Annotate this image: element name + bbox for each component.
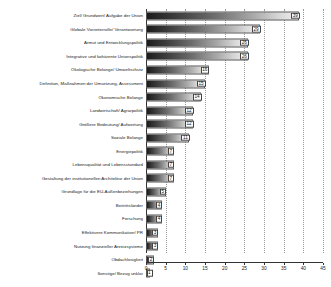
bar-area: 12 [146, 117, 331, 131]
bar-area: 5 [146, 185, 331, 199]
value-label: 7 [168, 175, 174, 182]
bar-area: 14 [146, 90, 331, 104]
tick-mark-30 [264, 263, 265, 265]
tick-mark-15 [205, 263, 206, 265]
tick-label-15: 15 [202, 266, 207, 272]
value-label: 5 [160, 189, 166, 196]
value-label: 26 [240, 40, 249, 47]
value-label: 3 [152, 243, 158, 250]
bar-area: 26 [146, 36, 331, 50]
bar-track [146, 65, 209, 74]
tick-label-35: 35 [281, 266, 286, 272]
bar-track [146, 52, 248, 61]
tick-label-20: 20 [222, 266, 227, 272]
category-label: Lebensqualität und Lebensstandard [0, 162, 146, 167]
tick-mark-35 [284, 263, 285, 265]
category-label: Soziale Belange [0, 135, 146, 140]
bar-track [146, 11, 299, 20]
category-label: Forschung [0, 216, 146, 221]
value-label: 7 [168, 161, 174, 168]
tick-label-5: 5 [164, 266, 167, 272]
bar-rows: Ziel/ Grundwert/ Aufgabe der Union39Glob… [0, 9, 331, 280]
category-label: Sonstige/ Bezug unklar [0, 271, 146, 276]
tick-label-0: 0 [145, 266, 148, 272]
bar-row: Globale Vorreiterrolle/ Verantwortung29 [0, 23, 331, 37]
plot-area: Ziel/ Grundwert/ Aufgabe der Union39Glob… [0, 0, 331, 287]
value-label: 16 [201, 67, 210, 74]
tick-label-40: 40 [301, 266, 306, 272]
category-label: Größere Bedeutung/ Aufwertung [0, 122, 146, 127]
bar-area: 29 [146, 23, 331, 37]
x-axis-ticks: 051015202530354045 [146, 263, 323, 275]
tick-label-30: 30 [261, 266, 266, 272]
tick-label-10: 10 [183, 266, 188, 272]
value-label: 3 [152, 229, 158, 236]
bar-area: 26 [146, 50, 331, 64]
bar [146, 11, 299, 20]
bar-row: Definition, Maßnahmen der Umsetzung, Ass… [0, 77, 331, 91]
bar-row: Lebensqualität und Lebensstandard7 [0, 158, 331, 172]
bar-area: 39 [146, 9, 331, 23]
category-label: Grundlage für die EU-Außenbeziehungen [0, 189, 146, 194]
bar-area: 3 [146, 239, 331, 253]
bar-area: 7 [146, 172, 331, 186]
value-label: 14 [193, 94, 202, 101]
value-label: 12 [185, 121, 194, 128]
category-label: Energiepolitik [0, 149, 146, 154]
bar-row: Beitrittsländer4 [0, 199, 331, 213]
tick-mark-45 [323, 263, 324, 265]
value-label: 4 [156, 216, 162, 223]
bar-row: Gestaltung der institutionellen Architek… [0, 172, 331, 186]
bar-area: 16 [146, 63, 331, 77]
bar-area: 7 [146, 144, 331, 158]
tick-label-45: 45 [320, 266, 325, 272]
value-label: 26 [240, 53, 249, 60]
category-label: Definition, Maßnahmen der Umsetzung, Ass… [0, 81, 146, 86]
category-label: Integrative und kohärente Unionspolitik [0, 54, 146, 59]
bar-chart: Ziel/ Grundwert/ Aufgabe der Union39Glob… [0, 0, 331, 287]
bar [146, 25, 260, 34]
bar-row: Energiepolitik7 [0, 144, 331, 158]
value-label: 15 [197, 80, 206, 87]
tick-label-25: 25 [242, 266, 247, 272]
category-label: Beitrittsländer [0, 203, 146, 208]
category-label: Obdachlosigkeit [0, 257, 146, 262]
bar-row: Effektivere Kommunikation/ PR3 [0, 226, 331, 240]
category-label: Armut und Entwicklungspolitik [0, 40, 146, 45]
category-label: Globale Vorreiterrolle/ Verantwortung [0, 27, 146, 32]
tick-mark-40 [303, 263, 304, 265]
category-label: Ökonomische Belange [0, 95, 146, 100]
value-label: 39 [291, 12, 300, 19]
tick-mark-5 [166, 263, 167, 265]
bar-area: 7 [146, 158, 331, 172]
bar-row: Grundlage für die EU-Außenbeziehungen5 [0, 185, 331, 199]
bar-track [146, 38, 248, 47]
bar-area: 4 [146, 199, 331, 213]
bar-row: Landwirtschaft/ Agrarpolitik12 [0, 104, 331, 118]
category-label: Ökologische Belange/ Umweltschutz [0, 67, 146, 72]
bar-row: Ziel/ Grundwert/ Aufgabe der Union39 [0, 9, 331, 23]
bar [146, 38, 248, 47]
bar [146, 65, 209, 74]
bar-row: Forschung4 [0, 212, 331, 226]
value-label: 4 [156, 202, 162, 209]
category-label: Gestaltung der institutionellen Architek… [0, 176, 146, 181]
category-label: Landwirtschaft/ Agrarpolitik [0, 108, 146, 113]
value-label: 7 [168, 148, 174, 155]
bar-area: 3 [146, 226, 331, 240]
bar-row: Soziale Belange11 [0, 131, 331, 145]
bar-row: Armut und Entwicklungspolitik26 [0, 36, 331, 50]
bar-area: 15 [146, 77, 331, 91]
bar-area: 11 [146, 131, 331, 145]
bar-track [146, 25, 260, 34]
bar-row: Ökonomische Belange14 [0, 90, 331, 104]
category-label: Nutzung finanzieller Anreizsysteme [0, 244, 146, 249]
tick-mark-20 [225, 263, 226, 265]
bar [146, 52, 248, 61]
tick-mark-25 [244, 263, 245, 265]
bar-row: Nutzung finanzieller Anreizsysteme3 [0, 239, 331, 253]
tick-mark-10 [185, 263, 186, 265]
value-label: 12 [185, 107, 194, 114]
bar-row: Integrative und kohärente Unionspolitik2… [0, 50, 331, 64]
value-label: 11 [181, 134, 190, 141]
